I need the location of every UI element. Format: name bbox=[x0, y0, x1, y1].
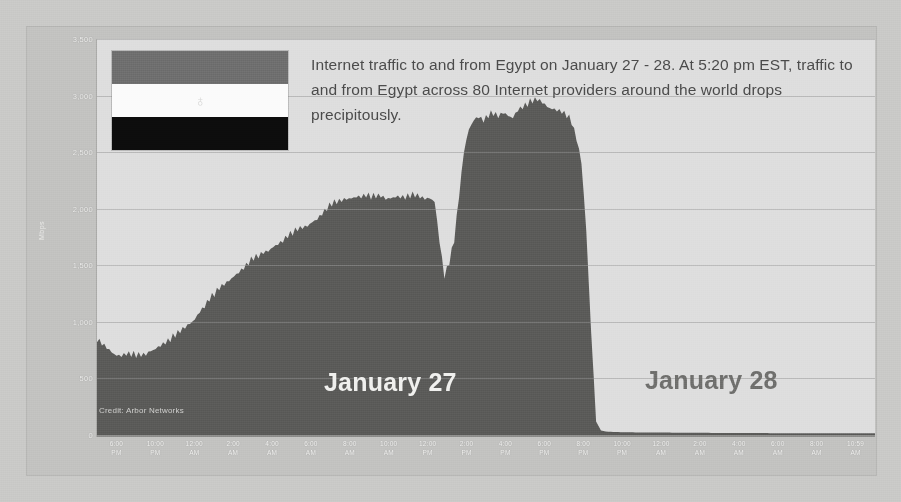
gridline bbox=[97, 322, 875, 323]
x-axis-tick-label: 6:00AM bbox=[290, 439, 332, 457]
gridline bbox=[97, 265, 875, 266]
x-axis-tick-label: 4:00AM bbox=[251, 439, 293, 457]
eagle-of-saladin-icon: ♁ bbox=[194, 93, 205, 108]
x-axis-tick-label: 10:59AM bbox=[835, 439, 877, 457]
x-axis-tick-label: 12:00AM bbox=[640, 439, 682, 457]
annotation-text: Internet traffic to and from Egypt on Ja… bbox=[311, 52, 856, 127]
x-axis-tick-label: 2:00AM bbox=[679, 439, 721, 457]
y-axis-tick-label: 0 bbox=[47, 431, 93, 440]
x-axis-tick-label: 8:00AM bbox=[329, 439, 371, 457]
x-axis-tick-label: 8:00AM bbox=[796, 439, 838, 457]
day-label-january-28: January 28 bbox=[645, 366, 778, 395]
flag-stripe-middle: ♁ bbox=[112, 84, 288, 117]
x-axis-tick-label: 10:00PM bbox=[601, 439, 643, 457]
x-axis-tick-label: 6:00PM bbox=[523, 439, 565, 457]
x-axis-tick-label: 4:00AM bbox=[718, 439, 760, 457]
y-axis-tick-label: 2,000 bbox=[47, 204, 93, 213]
flag-stripe-top bbox=[112, 51, 288, 84]
x-axis: 6:00PM10:00PM12:00AM2:00AM4:00AM6:00AM8:… bbox=[97, 437, 875, 473]
chart-frame: 05001,0001,5002,0002,5003,0003,500 Mbps … bbox=[27, 27, 876, 475]
y-axis-tick-label: 2,500 bbox=[47, 148, 93, 157]
x-axis-tick-label: 6:00PM bbox=[95, 439, 137, 457]
gridline bbox=[97, 39, 875, 40]
gridline bbox=[97, 152, 875, 153]
day-label-january-27: January 27 bbox=[324, 368, 457, 397]
y-axis-tick-label: 1,500 bbox=[47, 261, 93, 270]
x-axis-tick-label: 10:00PM bbox=[134, 439, 176, 457]
egypt-flag: ♁ bbox=[112, 51, 288, 150]
x-axis-tick-label: 2:00PM bbox=[446, 439, 488, 457]
x-axis-tick-label: 2:00AM bbox=[212, 439, 254, 457]
y-axis-tick-label: 500 bbox=[47, 374, 93, 383]
y-axis-line bbox=[96, 39, 97, 437]
x-axis-tick-label: 12:00PM bbox=[407, 439, 449, 457]
y-axis-tick-label: 3,000 bbox=[47, 91, 93, 100]
x-axis-tick-label: 12:00AM bbox=[173, 439, 215, 457]
y-axis-title: Mbps bbox=[38, 201, 45, 261]
credit-label: Credit: Arbor Networks bbox=[99, 406, 184, 415]
x-axis-tick-label: 4:00PM bbox=[484, 439, 526, 457]
y-axis-tick-label: 1,000 bbox=[47, 317, 93, 326]
x-axis-tick-label: 10:00AM bbox=[368, 439, 410, 457]
x-axis-tick-label: 6:00AM bbox=[757, 439, 799, 457]
flag-stripe-bottom bbox=[112, 117, 288, 150]
gridline bbox=[97, 209, 875, 210]
y-axis-tick-label: 3,500 bbox=[47, 35, 93, 44]
x-axis-tick-label: 8:00PM bbox=[562, 439, 604, 457]
